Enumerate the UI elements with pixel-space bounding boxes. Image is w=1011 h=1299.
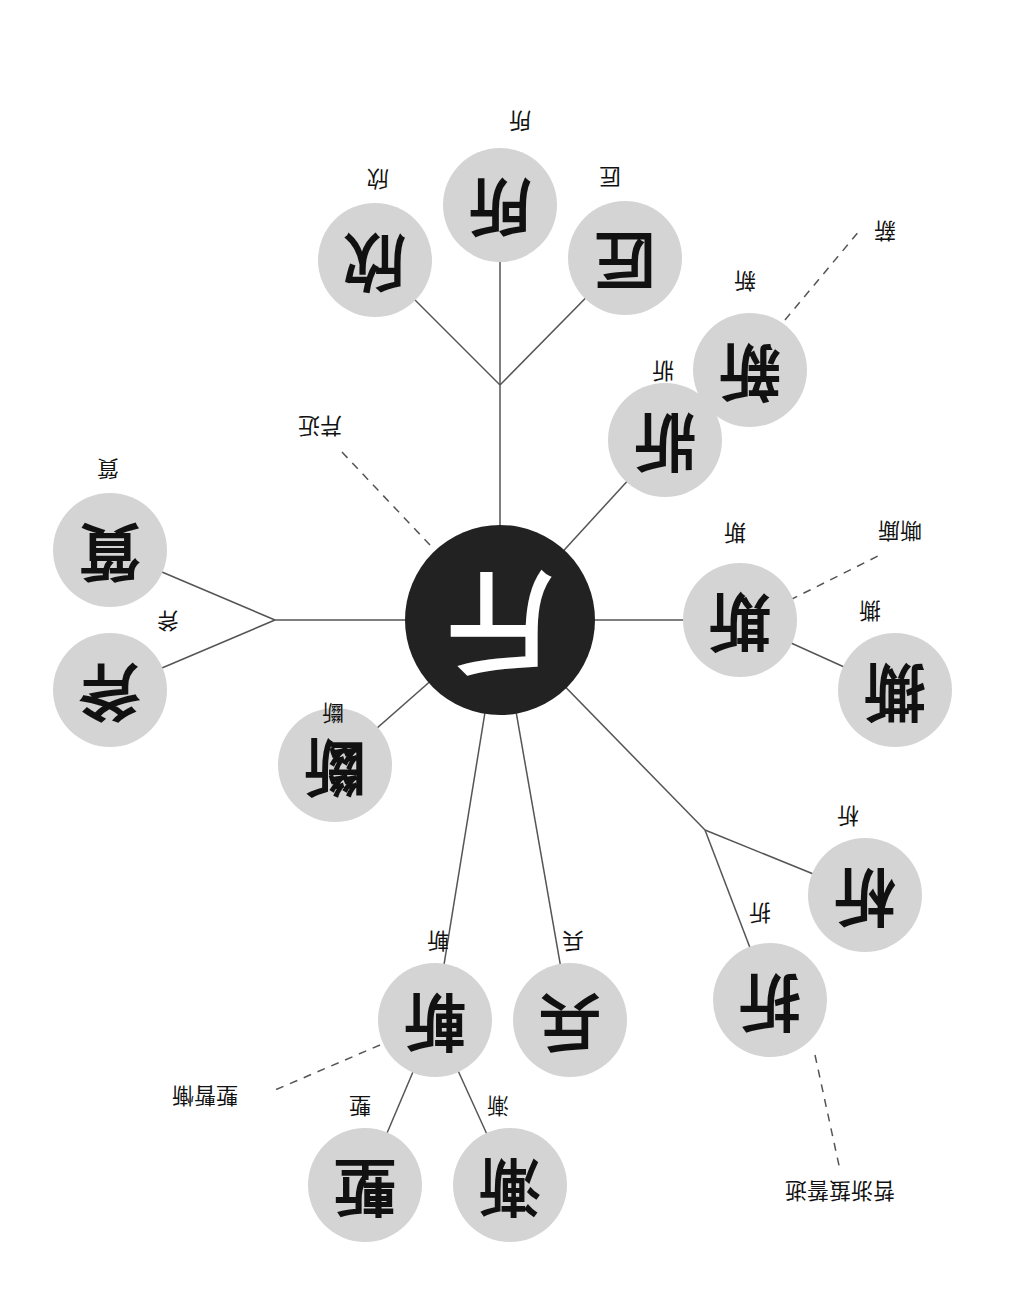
node-label: 斷 [322, 701, 344, 723]
char-node-jiang: 匠 [568, 201, 682, 315]
derived-chars-annotation: 薪 [874, 219, 896, 241]
char-node-suo: 所 [443, 148, 557, 262]
node-label: 斧 [157, 609, 179, 631]
derived-chars-annotation: 塹暫慚 [172, 1084, 238, 1106]
ancient-glyph: 析 [834, 864, 896, 926]
node-label: 欣 [367, 167, 389, 189]
ancient-glyph: 斧 [79, 659, 141, 721]
ancient-glyph: 新 [719, 339, 781, 401]
ancient-glyph: 兵 [539, 989, 601, 1051]
ancient-glyph: 所 [469, 174, 531, 236]
char-node-zhan: 斬 [378, 963, 492, 1077]
ancient-glyph: 斬 [404, 989, 466, 1051]
node-label: 新 [734, 269, 756, 291]
ancient-glyph: 撕 [864, 659, 926, 721]
ancient-glyph: 斯 [709, 589, 771, 651]
derived-chars-annotation: 嘶廝 [878, 519, 922, 541]
node-label: 斨 [652, 359, 674, 381]
dashed-annotation-line [275, 1045, 380, 1090]
char-node-xi: 析 [808, 838, 922, 952]
ancient-glyph: 質 [79, 519, 141, 581]
ancient-glyph: 漸 [479, 1154, 541, 1216]
ancient-glyph: 斷 [304, 734, 366, 796]
ancient-glyph: 欣 [344, 229, 406, 291]
derived-chars-annotation: 哲浙蜇誓逝 [785, 1179, 895, 1201]
dashed-annotation-line [815, 1055, 840, 1170]
node-label: 折 [749, 901, 771, 923]
node-label: 塹 [349, 1094, 371, 1116]
node-label: 斬 [427, 929, 449, 951]
ancient-glyph: 折 [739, 969, 801, 1031]
char-node-zhi: 質 [53, 493, 167, 607]
node-label: 斯 [724, 521, 746, 543]
char-node-duan: 斷 [278, 708, 392, 822]
ancient-glyph: 斨 [634, 409, 696, 471]
node-label: 匠 [599, 165, 621, 187]
node-label: 所 [509, 109, 531, 131]
ancient-glyph: 斤 [445, 565, 555, 675]
node-label: 兵 [562, 929, 584, 951]
node-label: 析 [837, 804, 859, 826]
char-node-xin_joy: 欣 [318, 203, 432, 317]
char-node-bing: 兵 [513, 963, 627, 1077]
ancient-glyph: 塹 [334, 1154, 396, 1216]
node-label: 質 [97, 457, 119, 479]
dashed-annotation-line [340, 450, 430, 545]
center-node: 斤 [405, 525, 595, 715]
node-label: 漸 [487, 1094, 509, 1116]
dashed-annotation-line [785, 230, 860, 320]
dashed-annotation-line [790, 555, 880, 600]
char-node-si_tear: 撕 [838, 633, 952, 747]
derived-chars-annotation: 芹近 [298, 414, 342, 436]
char-node-qiang: 斨 [608, 383, 722, 497]
char-node-jian: 漸 [453, 1128, 567, 1242]
ancient-glyph: 匠 [594, 227, 656, 289]
char-node-qian: 塹 [308, 1128, 422, 1242]
char-node-fu: 斧 [53, 633, 167, 747]
char-node-zhe: 折 [713, 943, 827, 1057]
char-node-si: 斯 [683, 563, 797, 677]
character-family-diagram: 斤欣欣所所匠匠新新斨斨斯斯撕撕析析折折兵兵斬斬漸漸塹塹斷斷斧斧質質薪嘶廝哲浙蜇誓… [0, 0, 1011, 1299]
node-label: 撕 [859, 599, 881, 621]
